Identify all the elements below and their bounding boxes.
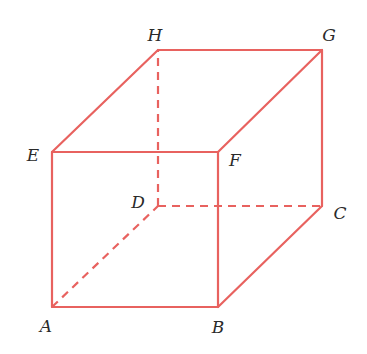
vertex-label-d: D	[131, 194, 145, 211]
edge-ad-hidden	[52, 206, 158, 307]
vertex-label-c: C	[333, 205, 346, 222]
cube-wireframe	[0, 0, 367, 354]
edge-eh	[52, 50, 158, 152]
vertex-label-h: H	[148, 27, 163, 44]
vertex-label-g: G	[322, 27, 336, 44]
edge-fg	[218, 50, 322, 152]
vertex-label-a: A	[40, 318, 52, 335]
vertex-label-f: F	[229, 152, 241, 169]
vertex-label-e: E	[27, 147, 39, 164]
vertex-label-b: B	[212, 319, 225, 336]
edge-bc	[218, 206, 322, 307]
cube-diagram: A B C D E F G H	[0, 0, 367, 354]
